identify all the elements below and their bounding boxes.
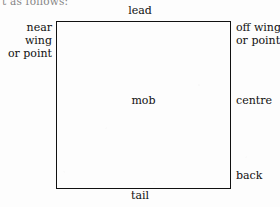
label-near-wing: near wingor point	[0, 21, 52, 60]
label-off-wing-line1: off wing	[236, 21, 280, 34]
label-tail: tail	[0, 190, 280, 203]
label-mob: mob	[56, 95, 231, 108]
label-near-wing-line1: near wing	[25, 21, 52, 47]
label-lead: lead	[0, 5, 280, 18]
label-back: back	[236, 170, 262, 183]
label-off-wing: off wingor point	[236, 21, 280, 47]
label-centre: centre	[236, 95, 272, 108]
label-near-wing-line2: or point	[8, 47, 52, 60]
diagram-page: t as follows: lead near wingor point off…	[0, 0, 280, 207]
label-off-wing-line2: or point	[236, 34, 280, 47]
